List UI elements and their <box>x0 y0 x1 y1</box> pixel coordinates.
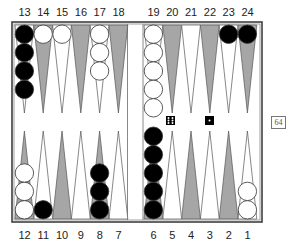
black-checker[interactable] <box>144 127 162 145</box>
black-checker[interactable] <box>15 25 33 43</box>
white-checker[interactable] <box>90 25 108 43</box>
white-checker[interactable] <box>15 164 33 182</box>
die-pip <box>172 122 174 124</box>
black-checker[interactable] <box>90 164 108 182</box>
black-checker[interactable] <box>219 25 237 43</box>
black-checker[interactable] <box>15 62 33 80</box>
black-checker[interactable] <box>144 145 162 163</box>
die-pip <box>209 120 211 122</box>
white-checker[interactable] <box>144 99 162 117</box>
white-checker[interactable] <box>144 25 162 43</box>
black-checker[interactable] <box>144 164 162 182</box>
white-checker[interactable] <box>90 62 108 80</box>
white-checker[interactable] <box>144 80 162 98</box>
white-checker[interactable] <box>144 43 162 61</box>
black-checker[interactable] <box>15 43 33 61</box>
white-checker[interactable] <box>15 182 33 200</box>
die-pip <box>168 120 170 122</box>
black-checker[interactable] <box>90 182 108 200</box>
board-graphic[interactable] <box>0 0 292 246</box>
white-checker[interactable] <box>144 62 162 80</box>
black-checker[interactable] <box>34 201 52 219</box>
black-checker[interactable] <box>90 201 108 219</box>
black-checker[interactable] <box>144 201 162 219</box>
white-checker[interactable] <box>90 43 108 61</box>
white-checker[interactable] <box>238 201 256 219</box>
die-pip <box>168 122 170 124</box>
black-checker[interactable] <box>238 25 256 43</box>
die-pip <box>172 117 174 119</box>
die-1 <box>166 116 175 125</box>
white-checker[interactable] <box>53 25 71 43</box>
white-checker[interactable] <box>238 182 256 200</box>
doubling-cube[interactable]: 64 <box>271 116 286 129</box>
black-checker[interactable] <box>15 80 33 98</box>
white-checker[interactable] <box>15 201 33 219</box>
white-checker[interactable] <box>34 25 52 43</box>
die-pip <box>168 117 170 119</box>
black-checker[interactable] <box>144 182 162 200</box>
die-pip <box>172 120 174 122</box>
